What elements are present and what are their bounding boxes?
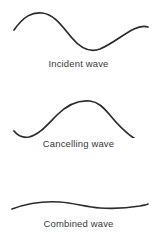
caption-incident-wave: Incident wave <box>0 57 157 70</box>
wave-cancellation-figure: Incident wave Cancelling wave Combined w… <box>0 0 157 245</box>
cancelling-wave-graphic <box>0 80 157 138</box>
panel-cancelling-wave: Cancelling wave <box>0 80 157 160</box>
combined-wave-curve <box>12 202 148 209</box>
cancelling-wave-curve <box>14 101 148 138</box>
panel-combined-wave: Combined wave <box>0 160 157 240</box>
caption-cancelling-wave: Cancelling wave <box>0 137 157 150</box>
caption-combined-wave: Combined wave <box>0 217 157 230</box>
incident-wave-curve <box>14 13 148 50</box>
panel-incident-wave: Incident wave <box>0 0 157 80</box>
incident-wave-graphic <box>0 0 157 58</box>
combined-wave-graphic <box>0 160 157 218</box>
